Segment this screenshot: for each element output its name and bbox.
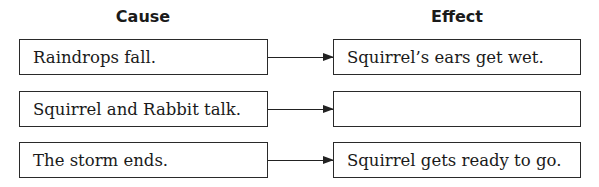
cause-text-3: The storm ends.	[33, 151, 168, 170]
effect-column-header: Effect	[333, 7, 581, 26]
cause-column-header: Cause	[19, 7, 267, 26]
cause-box-2: Squirrel and Rabbit talk.	[19, 91, 268, 127]
effect-box-2-empty[interactable]	[333, 91, 581, 127]
arrow-1	[268, 57, 333, 58]
effect-text-1: Squirrel’s ears get wet.	[347, 48, 544, 67]
effect-text-3: Squirrel gets ready to go.	[347, 151, 561, 170]
arrow-3	[268, 160, 333, 161]
cause-text-1: Raindrops fall.	[33, 48, 156, 67]
effect-box-1: Squirrel’s ears get wet.	[333, 39, 581, 75]
cause-box-1: Raindrops fall.	[19, 39, 268, 75]
cause-box-3: The storm ends.	[19, 142, 268, 178]
effect-box-3: Squirrel gets ready to go.	[333, 142, 581, 178]
arrow-2	[268, 109, 333, 110]
cause-text-2: Squirrel and Rabbit talk.	[33, 100, 241, 119]
